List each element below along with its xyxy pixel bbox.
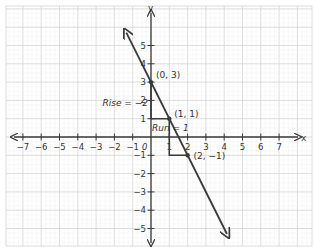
point-label: (0, 3) (156, 70, 180, 80)
y-tick-label: −2 (133, 169, 146, 179)
y-tick-label: −5 (133, 224, 146, 234)
point-marker (149, 80, 153, 84)
x-tick-label: −4 (72, 142, 85, 152)
y-tick-label: 3 (141, 77, 146, 87)
x-tick-label: −3 (90, 142, 103, 152)
x-axis-label: x (301, 133, 307, 143)
point-marker (185, 153, 189, 157)
x-tick-label: −7 (17, 142, 30, 152)
origin-label: 0 (142, 142, 147, 152)
x-tick-label: 7 (276, 142, 281, 152)
coordinate-plane: xy −7−6−5−4−3−2−1123456754321−1−2−3−4−50… (0, 0, 314, 249)
coordinate-plane-diagram: xy −7−6−5−4−3−2−1123456754321−1−2−3−4−50… (0, 0, 314, 249)
x-tick-label: −2 (108, 142, 121, 152)
point-label: (1, 1) (174, 109, 198, 119)
x-tick-label: −6 (35, 142, 48, 152)
run-annotation: Run = 1 (152, 123, 189, 133)
x-tick-label: 5 (240, 142, 245, 152)
y-tick-label: −4 (133, 205, 146, 215)
y-axis-label: y (148, 3, 154, 13)
point-label: (2, −1) (194, 151, 226, 161)
x-tick-label: −5 (53, 142, 66, 152)
point-marker (167, 117, 171, 121)
x-tick-label: 6 (258, 142, 263, 152)
y-tick-label: 5 (141, 41, 146, 51)
y-tick-label: 1 (141, 114, 146, 124)
y-tick-label: −3 (133, 187, 146, 197)
rise-annotation: Rise = −2 (102, 98, 148, 108)
